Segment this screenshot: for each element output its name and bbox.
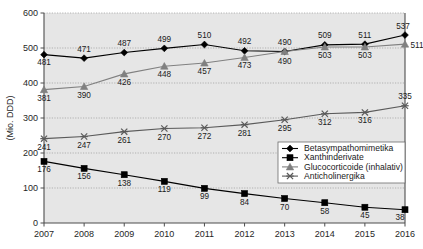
data-point-marker — [282, 196, 288, 202]
data-label: 176 — [37, 165, 51, 174]
x-tick-label: 2011 — [195, 229, 214, 239]
data-label: 509 — [318, 31, 332, 40]
x-tick-label: 2009 — [114, 229, 134, 239]
data-label: 471 — [77, 45, 91, 54]
y-tick-label: 0 — [33, 218, 38, 228]
x-tick-label: 2014 — [315, 229, 335, 239]
data-point-marker — [41, 158, 47, 164]
line-chart: 6005004003002001000 20072008200920102011… — [0, 0, 423, 249]
data-label: 295 — [278, 124, 292, 133]
y-tick-label: 400 — [23, 78, 38, 88]
data-label: 70 — [280, 203, 290, 212]
x-tick-label: 2007 — [34, 229, 54, 239]
y-tick-label: 600 — [23, 8, 38, 18]
x-tick-label: 2015 — [355, 229, 375, 239]
data-label: 503 — [358, 51, 372, 60]
y-tick-label: 300 — [23, 113, 38, 123]
data-label: 316 — [358, 116, 372, 125]
data-label: 492 — [238, 37, 252, 46]
x-tick-label: 2013 — [275, 229, 295, 239]
data-label: 490 — [278, 38, 292, 47]
data-label: 426 — [117, 78, 131, 87]
x-tick-label: 2010 — [154, 229, 174, 239]
data-label: 241 — [37, 143, 51, 152]
data-point-marker — [81, 165, 87, 171]
data-label: 38 — [395, 213, 405, 222]
data-label: 84 — [240, 198, 250, 207]
legend-marker-square — [287, 155, 293, 161]
data-label: 99 — [200, 192, 210, 201]
data-label: 156 — [77, 172, 91, 181]
data-label: 247 — [77, 141, 91, 150]
data-label: 473 — [238, 61, 252, 70]
data-label: 490 — [278, 57, 292, 66]
data-label: 58 — [320, 207, 330, 216]
data-label: 45 — [360, 211, 370, 220]
chart-legend: BetasympathomimetikaXanthinderivateGluco… — [278, 142, 405, 183]
data-point-marker — [201, 185, 207, 191]
data-point-marker — [242, 191, 248, 197]
y-tick-label: 500 — [23, 43, 38, 53]
data-label: 481 — [37, 58, 51, 67]
data-label: 487 — [117, 39, 131, 48]
x-tick-label: 2016 — [395, 229, 415, 239]
data-label: 390 — [77, 91, 91, 100]
data-label: 119 — [158, 185, 171, 194]
y-axis: 6005004003002001000 — [23, 8, 44, 228]
data-label: 138 — [117, 179, 131, 188]
data-label: 510 — [198, 31, 212, 40]
x-tick-label: 2012 — [235, 229, 255, 239]
data-label: 499 — [157, 35, 171, 44]
data-label: 448 — [157, 70, 171, 79]
data-label: 381 — [37, 94, 51, 103]
data-label: 503 — [318, 51, 332, 60]
data-point-marker — [161, 178, 167, 184]
data-point-marker — [362, 204, 368, 210]
data-label: 511 — [358, 31, 371, 40]
data-label: 511 — [410, 41, 423, 50]
data-label: 457 — [198, 67, 212, 76]
data-label: 272 — [198, 132, 212, 141]
data-label: 312 — [318, 118, 332, 127]
y-tick-label: 100 — [23, 183, 38, 193]
data-label: 281 — [238, 129, 252, 138]
y-axis-title: (Mio. DDD) — [5, 96, 15, 141]
data-point-marker — [121, 172, 127, 178]
data-point-marker — [322, 200, 328, 206]
data-label: 537 — [396, 22, 410, 31]
legend-label: Anticholinergika — [304, 171, 365, 181]
x-tick-label: 2008 — [74, 229, 94, 239]
data-label: 335 — [398, 92, 412, 101]
data-label: 270 — [157, 133, 171, 142]
data-label: 261 — [117, 136, 131, 145]
y-tick-label: 200 — [23, 148, 38, 158]
chart-container: 6005004003002001000 20072008200920102011… — [0, 0, 423, 249]
